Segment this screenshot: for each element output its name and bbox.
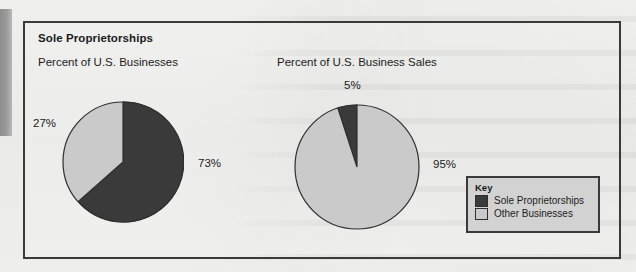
legend-label-sole-proprietorships: Sole Proprietorships <box>494 195 584 207</box>
pie-value-label-sales-other: 95% <box>433 158 456 170</box>
pie-chart-businesses <box>62 101 184 223</box>
figure-page: Sole Proprietorships Percent of U.S. Bus… <box>0 0 636 272</box>
legend-swatch-light <box>475 208 488 220</box>
figure-title: Sole Proprietorships <box>38 32 153 44</box>
legend-title: Key <box>475 182 598 193</box>
legend-item-other-businesses: Other Businesses <box>475 208 598 220</box>
legend-label-other-businesses: Other Businesses <box>494 208 573 220</box>
pie-chart-business-sales <box>294 104 420 230</box>
pie-value-label-businesses-other: 27% <box>33 117 56 129</box>
page-gutter-shadow <box>0 9 12 136</box>
legend-swatch-dark <box>475 195 488 207</box>
legend-item-sole-proprietorships: Sole Proprietorships <box>475 195 598 207</box>
chart-title-business-sales: Percent of U.S. Business Sales <box>277 56 437 68</box>
pie-value-label-businesses-sole: 73% <box>198 157 221 169</box>
chart-title-businesses: Percent of U.S. Businesses <box>38 56 178 68</box>
legend-key-box: Key Sole Proprietorships Other Businesse… <box>466 176 600 233</box>
pie-value-label-sales-sole: 5% <box>344 79 361 91</box>
